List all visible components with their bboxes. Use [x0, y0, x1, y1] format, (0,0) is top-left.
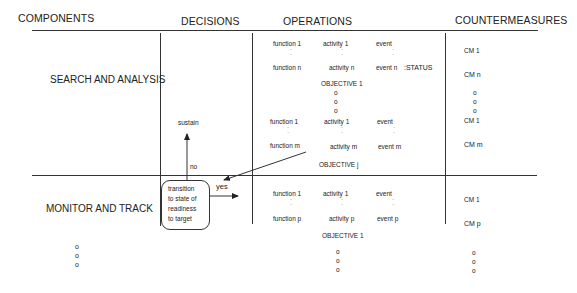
op-ellipsis: o o o [334, 88, 338, 115]
op-event-n: event n [376, 64, 397, 71]
op-event: event [377, 118, 393, 125]
op-event: event [376, 40, 392, 47]
cm-ellipsis: o o o [472, 248, 476, 275]
op-event: event [376, 190, 392, 197]
cm-1: CM 1 [464, 196, 480, 203]
op-function-p: function p [273, 215, 301, 222]
vdots: ·· [290, 47, 292, 57]
op-function-1: function 1 [270, 118, 298, 125]
op-ellipsis: o o o [336, 247, 340, 274]
op-function-m: function m [270, 142, 300, 149]
op-event-p: event p [377, 215, 398, 222]
op-activity-n: activity n [329, 64, 354, 71]
op-function-n: function n [273, 64, 301, 71]
vdots: ·· [393, 125, 395, 135]
cm-m: CM m [464, 141, 483, 148]
vdots: ·· [341, 125, 343, 135]
op-activity-1: activity 1 [323, 40, 348, 47]
cm-ellipsis: o o o [473, 88, 477, 115]
cm-1: CM 1 [464, 117, 480, 124]
op-function-1: function 1 [273, 190, 301, 197]
vdots: ·· [392, 47, 394, 57]
cm-p: CM p [464, 220, 481, 227]
op-objective-1: OBJECTIVE 1 [321, 80, 363, 87]
op-event-m: event m [378, 143, 401, 150]
cm-n: CM n [464, 71, 481, 78]
op-function-1: function 1 [273, 40, 301, 47]
op-status: :STATUS [404, 64, 433, 71]
op-objective-1: OBJECTIVE 1 [322, 232, 364, 239]
arrow-to-yes [224, 152, 306, 180]
op-activity-m: activity m [330, 143, 357, 150]
vdots: ·· [287, 125, 289, 135]
op-activity-1: activity 1 [324, 118, 349, 125]
op-activity-1: activity 1 [323, 190, 348, 197]
vdots: ·· [341, 47, 343, 57]
vdots: ·· [290, 197, 292, 207]
cm-1: CM 1 [464, 47, 480, 54]
vdots: ·· [392, 197, 394, 207]
vdots: ·· [341, 197, 343, 207]
op-objective-j: OBJECTIVE j [319, 161, 358, 168]
op-activity-p: activity p [329, 215, 354, 222]
